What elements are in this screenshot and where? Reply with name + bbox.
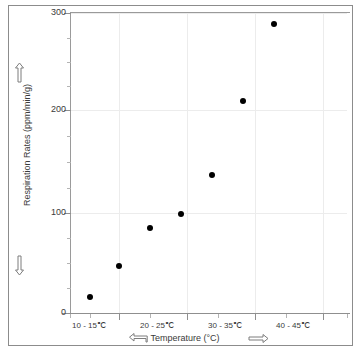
y-tick-minor <box>67 263 71 264</box>
y-axis-line <box>70 12 71 314</box>
x-tick-minor <box>286 314 287 318</box>
y-tick-label-300: 300 <box>26 8 66 17</box>
gridline-horizontal-100 <box>71 213 347 214</box>
x-axis-line <box>62 313 350 314</box>
y-tick-label-100: 100 <box>26 208 66 217</box>
y-tick-minor <box>67 162 71 163</box>
x-tick-label-40-45: 40 - 45℃ <box>263 321 323 330</box>
x-tick-major-1 <box>119 314 120 320</box>
data-point <box>209 172 215 178</box>
x-tick-major-2 <box>187 314 188 320</box>
y-tick-minor <box>67 238 71 239</box>
up-arrow-icon <box>14 62 26 84</box>
x-tick-minor <box>90 314 91 318</box>
data-point <box>178 211 184 217</box>
x-tick-minor <box>150 314 151 318</box>
x-tick-minor <box>347 314 348 318</box>
y-tick-minor <box>67 62 71 63</box>
down-arrow-icon <box>14 255 26 277</box>
figure-canvas: 300 200 100 0 10 - 15℃ 20 - 25℃ 30 - 35℃… <box>0 0 362 359</box>
data-point <box>87 294 93 300</box>
y-tick-minor <box>67 188 71 189</box>
y-tick-label-0: 0 <box>26 308 66 317</box>
x-tick-minor <box>218 314 219 318</box>
data-point <box>147 225 153 231</box>
gridline-vertical-3 <box>255 13 256 313</box>
gridline-vertical-2 <box>187 13 188 313</box>
gridline-horizontal-300 <box>71 13 347 14</box>
x-tick-major-4 <box>323 314 324 320</box>
x-tick-major-3 <box>255 314 256 320</box>
x-tick-label-20-25: 20 - 25℃ <box>127 321 187 330</box>
left-arrow-icon <box>128 333 148 345</box>
figure-border <box>8 5 353 346</box>
gridline-vertical-4 <box>323 13 324 313</box>
right-arrow-icon <box>248 333 270 345</box>
gridline-horizontal-200 <box>71 110 347 111</box>
y-tick-label-200: 200 <box>26 105 66 114</box>
data-point <box>271 21 277 27</box>
data-point <box>240 98 246 104</box>
x-tick-label-30-35: 30 - 35℃ <box>195 321 255 330</box>
x-tick-minor <box>70 314 71 318</box>
y-tick-minor <box>67 38 71 39</box>
y-tick-minor <box>67 288 71 289</box>
y-tick-minor <box>67 136 71 137</box>
data-point <box>116 263 122 269</box>
y-tick-minor <box>67 86 71 87</box>
x-tick-label-10-15: 10 - 15℃ <box>59 321 119 330</box>
plot-top-rule <box>70 12 350 13</box>
